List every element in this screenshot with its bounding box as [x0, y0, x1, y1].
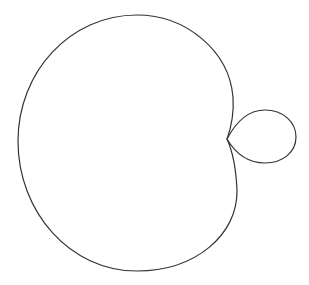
small-loop-curve — [227, 110, 296, 163]
large-lobe-curve — [18, 15, 237, 271]
figure-canvas — [0, 0, 309, 285]
curve-figure — [0, 0, 309, 285]
